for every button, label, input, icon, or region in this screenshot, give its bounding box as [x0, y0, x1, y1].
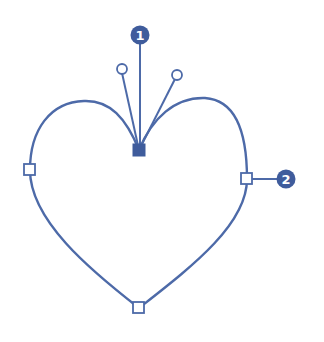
right-smooth-anchor[interactable] [241, 173, 252, 184]
right-direction-handle[interactable] [172, 70, 182, 80]
bottom-anchor[interactable] [133, 302, 144, 313]
callout-badge-2-label: 2 [281, 172, 290, 187]
callout-badge-1-label: 1 [135, 28, 144, 43]
heart-path-diagram: 1 2 [0, 0, 324, 342]
heart-path [30, 98, 247, 308]
callout-badge-2: 2 [277, 170, 296, 189]
left-anchor[interactable] [24, 164, 35, 175]
callout-badge-1: 1 [131, 26, 150, 45]
selected-corner-anchor[interactable] [133, 144, 145, 156]
left-direction-handle[interactable] [117, 64, 127, 74]
right-handle-line [139, 79, 175, 150]
left-handle-line [122, 73, 139, 150]
